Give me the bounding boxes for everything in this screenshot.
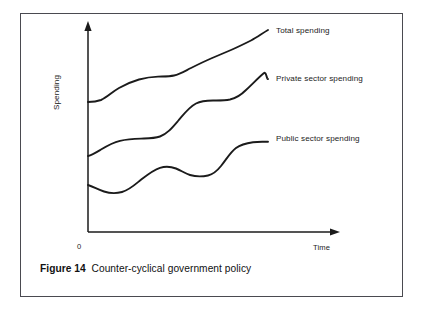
y-axis-label: Spending — [52, 75, 61, 110]
series-label-total-spending: Total spending — [276, 26, 330, 35]
series-label-private-sector-spending: Private sector spending — [276, 74, 363, 83]
figure-container: Total spending Private sector spending P… — [0, 0, 426, 313]
x-axis-label: Time — [313, 243, 330, 252]
figure-border — [20, 13, 403, 297]
figure-caption-text: Counter-cyclical government policy — [92, 263, 252, 274]
axis-origin-label: 0 — [77, 242, 81, 251]
series-label-public-sector-spending: Public sector spending — [276, 134, 360, 143]
figure-number: Figure 14 — [40, 263, 86, 274]
figure-caption: Figure 14 Counter-cyclical government po… — [40, 263, 251, 274]
